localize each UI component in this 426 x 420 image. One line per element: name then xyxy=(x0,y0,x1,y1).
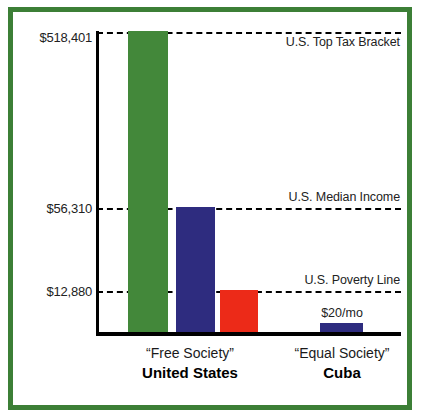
y-tick-label-poverty-line: $12,880 xyxy=(0,284,92,299)
y-tick-label-median-income: $56,310 xyxy=(0,201,92,216)
plot-area: $518,401 $56,310 $12,880 U.S. Top Tax Br… xyxy=(0,0,426,420)
group-label-free-society: “Free Society” xyxy=(110,344,270,363)
annotation-poverty-line: U.S. Poverty Line xyxy=(304,273,400,287)
group-label-cuba: Cuba xyxy=(262,363,422,383)
bar-us-poverty-line xyxy=(220,290,258,332)
x-axis-group-united-states: “Free Society” United States xyxy=(110,344,270,383)
bar-cuba-average-wage xyxy=(320,323,363,332)
x-axis-group-cuba: “Equal Society” Cuba xyxy=(262,344,422,383)
bar-us-top-tax-bracket xyxy=(128,31,168,332)
annotation-median-income: U.S. Median Income xyxy=(289,190,400,204)
group-label-united-states: United States xyxy=(110,363,270,383)
bar-us-median-income xyxy=(176,207,215,332)
chart-figure: $518,401 $56,310 $12,880 U.S. Top Tax Br… xyxy=(0,0,426,420)
bar-label-cuba-wage: $20/mo xyxy=(300,306,384,320)
y-tick-label-top-tax-bracket: $518,401 xyxy=(0,30,92,45)
annotation-top-tax-bracket: U.S. Top Tax Bracket xyxy=(286,35,400,49)
group-label-equal-society: “Equal Society” xyxy=(262,344,422,363)
x-axis-line xyxy=(96,332,401,336)
